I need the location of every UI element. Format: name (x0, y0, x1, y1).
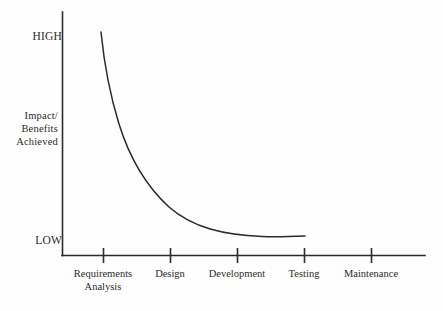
y-axis-title-line-3: Achieved (0, 136, 58, 149)
x-axis-label-requirements-analysis: Requirements Analysis (74, 268, 132, 293)
x-label-line-1: Testing (289, 268, 320, 279)
x-label-line-2: Analysis (74, 281, 132, 294)
x-label-line-1: Requirements (74, 268, 132, 279)
y-axis-title: Impact/ Benefits Achieved (0, 110, 58, 148)
x-label-line-1: Development (209, 268, 266, 279)
y-axis-title-line-1: Impact/ (0, 110, 58, 123)
x-axis-label-maintenance: Maintenance (344, 268, 398, 281)
x-axis-label-testing: Testing (289, 268, 320, 281)
y-axis-title-line-2: Benefits (0, 123, 58, 136)
x-axis-label-development: Development (209, 268, 266, 281)
y-axis-low-label: LOW (10, 234, 62, 247)
x-axis-label-design: Design (155, 268, 185, 281)
chart-plot-area (0, 0, 443, 311)
chart-figure: HIGH LOW Impact/ Benefits Achieved Requi… (0, 0, 443, 311)
x-label-line-1: Design (155, 268, 185, 279)
x-label-line-1: Maintenance (344, 268, 398, 279)
impact-benefits-decay-curve (101, 32, 305, 237)
y-axis-high-label: HIGH (10, 30, 62, 43)
